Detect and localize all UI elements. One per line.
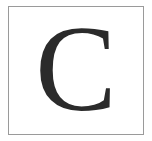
letter-glyph: C (9, 7, 143, 134)
letter-card: C (8, 6, 144, 135)
